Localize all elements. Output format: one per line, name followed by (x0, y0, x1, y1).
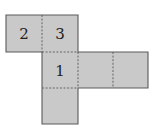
face-bottom (42, 88, 78, 124)
face-label-3: 3 (55, 25, 65, 43)
face-label-1: 1 (55, 62, 65, 80)
face-right-b (113, 52, 148, 88)
face-label-2: 2 (19, 25, 29, 43)
face-right-a (78, 52, 113, 88)
cube-net-diagram: 2 3 1 (0, 0, 158, 131)
